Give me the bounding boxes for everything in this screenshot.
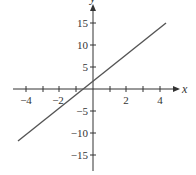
y-tick-label: 5 bbox=[83, 61, 89, 73]
y-tick-label: −15 bbox=[71, 149, 89, 161]
line-chart: x y −4 −2 2 4 15 10 5 −5 −10 −15 bbox=[0, 0, 196, 175]
x-axis-label: x bbox=[181, 82, 188, 96]
x-tick-label: 2 bbox=[123, 94, 129, 106]
y-tick-label: −5 bbox=[76, 105, 88, 117]
x-axis-arrow-icon bbox=[173, 86, 180, 92]
x-tick-label: −4 bbox=[20, 94, 32, 106]
y-tick-label: 10 bbox=[77, 39, 89, 51]
x-tick-label: −2 bbox=[52, 94, 64, 106]
y-tick-label: −10 bbox=[71, 127, 89, 139]
data-line bbox=[18, 23, 166, 141]
y-tick-label: 15 bbox=[77, 17, 89, 29]
y-axis-label: y bbox=[89, 0, 96, 5]
y-axis-arrow-icon bbox=[90, 4, 96, 11]
x-tick-label: 4 bbox=[157, 94, 163, 106]
